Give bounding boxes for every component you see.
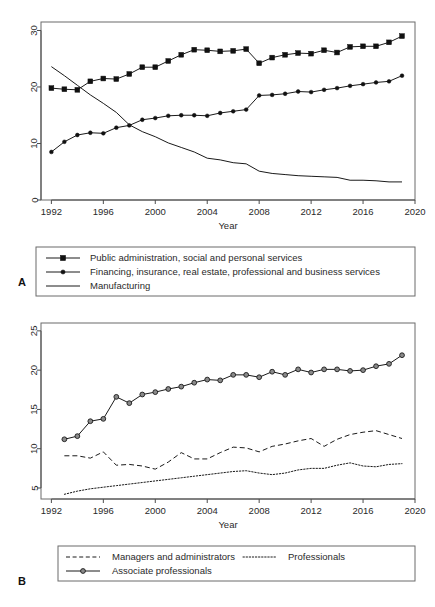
series-marker (283, 372, 288, 377)
series-marker (244, 108, 248, 112)
series-marker (374, 364, 379, 369)
series-marker (270, 369, 275, 374)
series-marker (335, 367, 340, 372)
legend: Managers and administratorsProfessionals… (58, 546, 415, 581)
series-marker (374, 81, 378, 85)
series-marker (348, 369, 353, 374)
series-marker (231, 48, 236, 53)
legend-marker (61, 270, 65, 274)
legend: Public administration, social and person… (36, 247, 415, 296)
y-tick-label: 10 (29, 443, 40, 454)
x-tick-label: 2004 (197, 206, 218, 217)
series-marker (49, 150, 53, 154)
legend-label-2: Manufacturing (90, 280, 150, 291)
panel-a-letter: A (18, 276, 26, 288)
series-marker (127, 72, 132, 77)
series-marker (218, 111, 222, 115)
series-marker (205, 114, 209, 118)
y-tick-label: 30 (29, 25, 40, 36)
series-marker (387, 361, 392, 366)
x-tick-label: 2008 (249, 206, 270, 217)
series-marker (218, 378, 223, 383)
series-marker (114, 394, 119, 399)
plot-frame (41, 22, 415, 200)
series-line-1 (64, 463, 402, 494)
panel-a: A 01020301992199620002004200820122016202… (0, 0, 435, 303)
legend-label-0: Managers and administrators (112, 551, 235, 562)
series-marker (400, 353, 405, 358)
x-tick-label: 2000 (145, 505, 166, 516)
series-marker (179, 52, 184, 57)
series-marker (153, 65, 158, 70)
series-marker (75, 434, 80, 439)
x-tick-label: 1996 (93, 206, 114, 217)
x-tick-label: 2004 (197, 505, 218, 516)
series-marker (231, 109, 235, 113)
series-marker (322, 367, 327, 372)
plot-area: 5101520251992199620002004200820122016202… (29, 323, 426, 530)
series-marker (244, 47, 249, 52)
y-tick-label: 10 (29, 138, 40, 149)
series-marker (374, 44, 379, 49)
series-marker (75, 87, 80, 92)
series-marker (335, 50, 340, 55)
series-marker (88, 131, 92, 135)
legend-label-1: Financing, insurance, real estate, profe… (90, 266, 380, 277)
series-marker (387, 40, 392, 45)
series-marker (400, 34, 405, 39)
x-axis-title: Year (218, 519, 237, 530)
legend-marker (81, 569, 86, 574)
series-marker (179, 113, 183, 117)
series-marker (361, 368, 366, 373)
series-marker (361, 44, 366, 49)
series-marker (257, 375, 262, 380)
panel-b-chart: 5101520251992199620002004200820122016202… (0, 303, 435, 607)
y-tick-label: 5 (29, 485, 40, 490)
series-marker (205, 48, 210, 53)
panel-a-chart: 010203019921996200020042008201220162020Y… (0, 0, 435, 303)
x-tick-label: 2020 (404, 505, 425, 516)
series-marker (270, 93, 274, 97)
series-marker (114, 77, 119, 82)
series-marker (101, 416, 106, 421)
series-marker (218, 49, 223, 54)
series-marker (296, 367, 301, 372)
x-tick-label: 2016 (352, 505, 373, 516)
x-tick-label: 2020 (404, 206, 425, 217)
series-marker (192, 380, 197, 385)
series-marker (75, 133, 79, 137)
series-marker (348, 84, 352, 88)
series-marker (231, 372, 236, 377)
series-marker (88, 419, 93, 424)
series-marker (257, 94, 261, 98)
series-marker (361, 82, 365, 86)
legend-marker (60, 255, 65, 260)
series-marker (62, 140, 66, 144)
series-marker (192, 113, 196, 117)
series-marker (296, 90, 300, 94)
x-tick-label: 1996 (93, 505, 114, 516)
legend-label-0: Public administration, social and person… (90, 252, 303, 263)
series-marker (283, 52, 288, 57)
series-marker (166, 114, 170, 118)
y-tick-label: 25 (29, 326, 40, 337)
x-tick-label: 1992 (41, 206, 62, 217)
x-tick-label: 2000 (145, 206, 166, 217)
series-marker (62, 87, 67, 92)
x-tick-label: 2016 (352, 206, 373, 217)
series-marker (257, 61, 262, 66)
series-marker (348, 44, 353, 49)
series-marker (101, 76, 106, 81)
series-marker (387, 79, 391, 83)
series-marker (322, 48, 327, 53)
series-marker (153, 116, 157, 120)
series-marker (322, 88, 326, 92)
y-tick-label: 0 (29, 197, 40, 202)
y-tick-label: 20 (29, 365, 40, 376)
series-marker (270, 55, 275, 60)
x-tick-label: 2012 (301, 206, 322, 217)
y-tick-label: 15 (29, 404, 40, 415)
series-marker (140, 118, 144, 122)
series-marker (309, 90, 313, 94)
series-marker (114, 126, 118, 130)
